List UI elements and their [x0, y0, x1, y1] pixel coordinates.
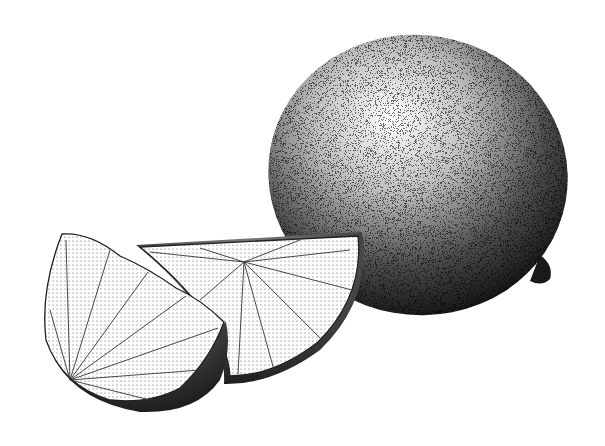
lime-illustration [0, 0, 605, 446]
illustration-svg [0, 0, 605, 446]
